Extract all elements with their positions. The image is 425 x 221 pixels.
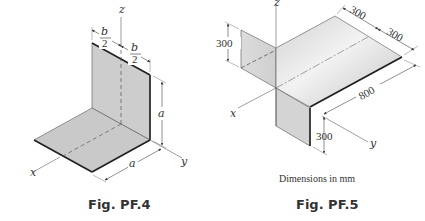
pf5-y-label: y [369, 137, 377, 150]
pf4-a-vertical: a [158, 107, 165, 120]
pf4-b-den-left: 2 [102, 37, 108, 49]
pf5-x-label: x [230, 107, 237, 120]
pf5-dim-upper-flange: 300 [216, 37, 233, 49]
pf5-z-label: z [273, 0, 280, 9]
pf4-b-den-right: 2 [132, 53, 138, 65]
pf4-y-label: y [180, 155, 188, 168]
labels-svg: z x y b 2 b 2 a a z x y 300 300 300 800 … [0, 0, 425, 221]
fig-pf5-caption: Fig. PF.5 [296, 197, 359, 212]
pf4-z-label: z [118, 3, 125, 16]
figure-stage: z x y b 2 b 2 a a z x y 300 300 300 800 … [0, 0, 425, 221]
fig-pf4-caption: Fig. PF.4 [88, 197, 151, 212]
pf5-dim-top-right: 300 [385, 25, 406, 44]
pf4-x-label: x [30, 166, 37, 179]
pf4-a-horizontal: a [129, 157, 136, 170]
pf5-dim-length: 800 [356, 83, 377, 102]
pf5-units-note: Dimensions in mm [279, 173, 355, 184]
pf5-dim-lower-flange: 300 [316, 130, 333, 142]
pf5-dim-top-left: 300 [348, 3, 369, 22]
